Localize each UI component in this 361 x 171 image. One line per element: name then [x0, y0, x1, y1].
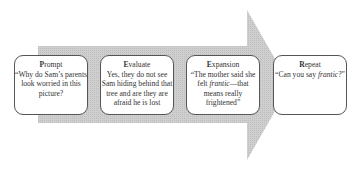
step-title: Expansion [187, 60, 259, 70]
step-title-rest: rompt [44, 60, 62, 69]
emphasis-word: frantic [209, 79, 229, 88]
text-part: ?” [338, 70, 345, 79]
step-text: “Why do Sam’s parents look worried in th… [15, 70, 87, 99]
step-evaluate: Evaluate Yes, they do not see Sam hiding… [100, 55, 174, 115]
step-repeat: Repeat “Can you say frantic?” [273, 55, 347, 115]
step-title: Evaluate [101, 60, 173, 70]
step-text: “Can you say frantic?” [274, 70, 346, 80]
step-title: Repeat [274, 60, 346, 70]
step-title-rest: epeat [305, 60, 321, 69]
step-text: Yes, they do not see Sam hiding behind t… [101, 70, 173, 108]
text-part: “Can you say [275, 70, 318, 79]
step-prompt: Prompt “Why do Sam’s parents look worrie… [14, 55, 88, 115]
step-title-rest: valuate [129, 60, 151, 69]
step-text: “The mother said she felt frantic—that m… [187, 70, 259, 108]
step-title: Prompt [15, 60, 87, 70]
step-expansion: Expansion “The mother said she felt fran… [186, 55, 260, 115]
emphasis-word: frantic [318, 70, 338, 79]
step-title-rest: xpansion [212, 60, 239, 69]
